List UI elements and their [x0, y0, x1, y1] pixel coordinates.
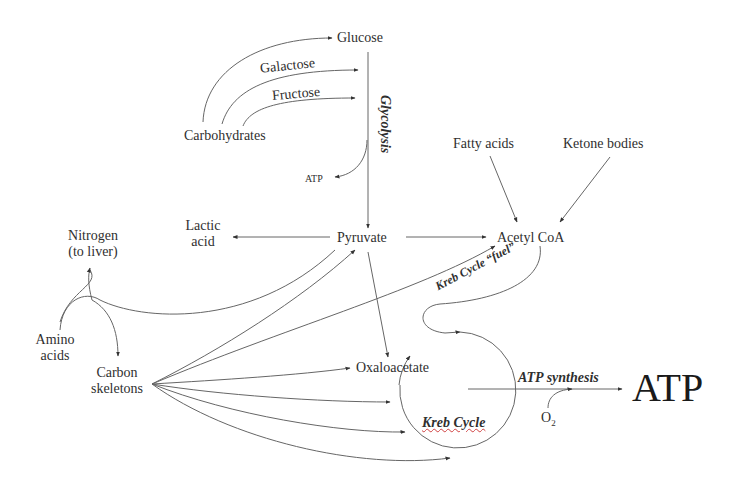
arrow-carbohydrates-glucose [203, 38, 332, 122]
node-ketone-bodies: Ketone bodies [563, 136, 643, 152]
arrow-carbon-oxaloacetate [152, 368, 350, 384]
node-lactic-acid: Lactic acid [178, 218, 228, 250]
arrow-carbon-kreb3 [152, 384, 450, 461]
arrow-pyruvate-oxaloacetate [368, 252, 388, 357]
node-atp-big: ATP [632, 366, 703, 410]
node-pyruvate: Pyruvate [337, 230, 387, 246]
node-nitrogen: Nitrogen (to liver) [58, 228, 128, 260]
arrow-fatty-acetyl [490, 156, 517, 222]
node-fatty-acids: Fatty acids [453, 136, 514, 152]
arrow-amino-carbon [92, 300, 118, 356]
arrow-carbon-pyruvate [152, 250, 355, 384]
node-atp-small: ATP [305, 171, 323, 187]
node-oxaloacetate: Oxaloacetate [356, 360, 429, 376]
label-kreb-cycle: Kreb Cycle [422, 415, 485, 431]
label-glycolysis: Glycolysis [377, 95, 393, 153]
arrow-glycolysis-atp [335, 140, 367, 177]
curve-amino-base [60, 250, 335, 330]
label-atp-synthesis: ATP synthesis [518, 370, 599, 386]
node-amino-acids: Amino acids [30, 332, 80, 364]
arrow-carbohydrates-fructose [243, 98, 355, 126]
node-glucose: Glucose [337, 30, 383, 46]
arrow-o2 [548, 389, 572, 408]
metabolism-diagram: Glucose Galactose Fructose Carbohydrates… [0, 0, 736, 488]
node-carbohydrates: Carbohydrates [184, 128, 266, 144]
arrow-ketone-acetyl [560, 157, 610, 222]
node-carbon-skeletons: Carbon skeletons [85, 365, 149, 397]
arrow-carbon-kreb2 [152, 384, 405, 432]
arrow-carbon-acetyl [152, 246, 495, 384]
arrow-carbon-kreb1 [152, 384, 390, 402]
node-o2: O2 [541, 410, 556, 431]
